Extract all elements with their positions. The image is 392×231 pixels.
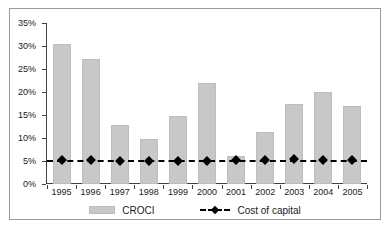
chart-figure: 0%5%10%15%20%25%30%35% 19951996199719981… — [9, 8, 381, 220]
bar — [111, 125, 129, 184]
x-axis-tick-label: 2001 — [226, 188, 246, 197]
x-axis-tick-label: 2002 — [255, 188, 275, 197]
y-axis-tick: 20% — [42, 92, 46, 93]
y-axis-tick-label: 5% — [23, 157, 36, 166]
y-axis-tick-label: 15% — [18, 111, 36, 120]
x-axis-tick-label: 1998 — [139, 188, 159, 197]
legend-item-croci: CROCI — [89, 205, 154, 216]
legend-dashed-line-icon — [200, 206, 230, 214]
x-axis-tick-label: 1996 — [81, 188, 101, 197]
legend-swatch-icon — [89, 206, 115, 214]
x-axis-tick-label: 2005 — [342, 188, 362, 197]
y-axis-tick: 0% — [42, 184, 46, 185]
bar — [314, 92, 332, 184]
bar — [198, 83, 216, 184]
legend-label-croci: CROCI — [122, 205, 154, 216]
y-axis-tick: 25% — [42, 69, 46, 70]
y-axis-tick: 15% — [42, 115, 46, 116]
y-axis-tick: 30% — [42, 46, 46, 47]
x-axis-tick-label: 1995 — [52, 188, 72, 197]
bar — [285, 104, 303, 184]
y-axis-tick-label: 20% — [18, 88, 36, 97]
x-axis-tick-label: 2000 — [197, 188, 217, 197]
legend-label-cost-of-capital: Cost of capital — [237, 205, 300, 216]
y-axis-tick-label: 25% — [18, 65, 36, 74]
legend-item-cost-of-capital: Cost of capital — [200, 205, 300, 216]
chart-legend: CROCI Cost of capital — [10, 201, 380, 219]
y-axis-tick: 10% — [42, 138, 46, 139]
y-axis-tick-label: 10% — [18, 134, 36, 143]
plot-area: 0%5%10%15%20%25%30%35% — [46, 15, 368, 185]
x-axis-tick-label: 2004 — [313, 188, 333, 197]
bar — [343, 106, 361, 184]
y-axis-tick-label: 30% — [18, 42, 36, 51]
y-axis-tick-label: 0% — [23, 180, 36, 189]
x-axis-labels: 1995199619971998199920002001200220032004… — [46, 188, 368, 202]
y-axis-tick: 5% — [42, 161, 46, 162]
x-axis-tick-label: 1999 — [168, 188, 188, 197]
y-axis-tick-label: 35% — [18, 19, 36, 28]
diamond-marker-icon — [211, 206, 219, 214]
x-axis-tick-label: 2003 — [284, 188, 304, 197]
bar — [169, 116, 187, 184]
y-axis-tick: 35% — [42, 23, 46, 24]
x-axis-tick-label: 1997 — [110, 188, 130, 197]
